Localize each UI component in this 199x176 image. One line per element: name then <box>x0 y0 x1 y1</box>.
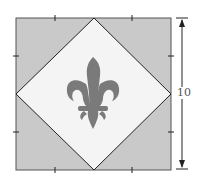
quilt-block-diagram <box>0 0 199 176</box>
arrow-down-icon <box>179 160 185 168</box>
dimension-label: 10 <box>177 87 191 99</box>
arrow-up-icon <box>179 19 185 27</box>
